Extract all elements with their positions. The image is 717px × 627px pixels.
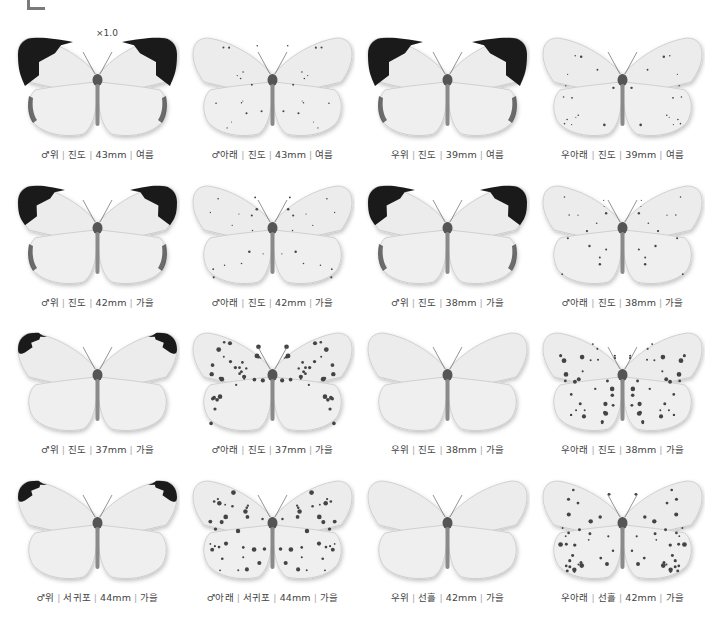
separator: | [591,149,594,160]
separator: | [480,444,483,455]
sex-side-label: 우위 [391,592,409,603]
season-label: 가을 [140,592,158,603]
size-label: 39mm [446,149,477,160]
sex-side-label: 우위 [391,444,409,455]
butterfly-image [540,30,705,142]
season-label: 여름 [315,149,333,160]
sex-side-label: ♂아래 [211,149,238,160]
separator: | [480,297,483,308]
separator: | [269,297,272,308]
size-label: 42mm [96,297,127,308]
separator: | [309,444,312,455]
butterfly-image [365,473,530,585]
size-label: 38mm [625,297,656,308]
separator: | [309,297,312,308]
separator: | [591,592,594,603]
season-label: 가을 [486,444,504,455]
locality-label: 진도 [418,297,436,308]
separator: | [309,149,312,160]
locality-label: 선흘 [418,592,436,603]
specimen-card: ♂위|서귀포|44mm|가을 [10,473,185,621]
sex-side-label: ♂아래 [561,297,588,308]
specimen-card: ♂아래|서귀포|44mm|가을 [185,473,360,621]
separator: | [659,444,662,455]
separator: | [412,149,415,160]
separator: | [619,297,622,308]
sex-side-label: 우아래 [561,592,588,603]
butterfly-image [540,325,705,437]
sex-side-label: ♂아래 [211,297,238,308]
separator: | [659,297,662,308]
season-label: 가을 [315,444,333,455]
butterfly-image [365,30,530,142]
separator: | [62,149,65,160]
separator: | [619,592,622,603]
size-label: 38mm [446,297,477,308]
corner-bracket-mark [27,0,45,10]
separator: | [619,149,622,160]
season-label: 가을 [136,444,154,455]
specimen-caption: ♂위|진도|37mm|가을 [10,442,185,456]
specimen-caption: 우아래|진도|39mm|여름 [535,147,710,161]
sex-side-label: 우아래 [561,444,588,455]
separator: | [273,592,276,603]
season-label: 가을 [315,297,333,308]
specimen-caption: ♂위|서귀포|44mm|가을 [10,590,185,604]
specimen-caption: 우위|진도|39mm|여름 [360,147,535,161]
separator: | [62,297,65,308]
separator: | [314,592,317,603]
size-label: 43mm [96,149,127,160]
size-label: 39mm [625,149,656,160]
separator: | [269,149,272,160]
separator: | [480,592,483,603]
butterfly-image [15,30,180,142]
size-label: 38mm [625,444,656,455]
specimen-caption: 우위|선흘|42mm|가을 [360,590,535,604]
separator: | [659,149,662,160]
locality-label: 서귀포 [243,592,270,603]
specimen-card: ♂아래|진도|42mm|가을 [185,178,360,326]
season-label: 가을 [666,592,684,603]
size-label: 44mm [100,592,131,603]
separator: | [412,592,415,603]
specimen-card: 우위|선흘|42mm|가을 [360,473,535,621]
season-label: 여름 [666,149,684,160]
specimen-card: 우위|진도|38mm|가을 [360,325,535,473]
butterfly-image [540,178,705,290]
sex-side-label: 우위 [391,149,409,160]
specimen-card: ♂아래|진도|43mm|여름 [185,30,360,178]
specimen-card: ♂아래|진도|38mm|가을 [535,178,710,326]
locality-label: 진도 [248,149,266,160]
specimen-caption: 우아래|진도|38mm|가을 [535,442,710,456]
butterfly-image [15,178,180,290]
specimen-caption: ♂아래|진도|43mm|여름 [185,147,360,161]
size-label: 43mm [275,149,306,160]
butterfly-image [190,325,355,437]
separator: | [89,444,92,455]
locality-label: 진도 [248,297,266,308]
separator: | [659,592,662,603]
sex-side-label: 우아래 [561,149,588,160]
separator: | [62,444,65,455]
separator: | [130,297,133,308]
separator: | [241,297,244,308]
sex-side-label: ♂위 [41,149,59,160]
size-label: 37mm [96,444,127,455]
specimen-caption: 우아래|선흘|42mm|가을 [535,590,710,604]
specimen-card: ♂위|진도|42mm|가을 [10,178,185,326]
specimen-card: 우아래|진도|38mm|가을 [535,325,710,473]
locality-label: 진도 [418,149,436,160]
sex-side-label: ♂아래 [207,592,234,603]
separator: | [130,149,133,160]
separator: | [439,444,442,455]
separator: | [237,592,240,603]
specimen-caption: ♂아래|진도|38mm|가을 [535,295,710,309]
separator: | [241,444,244,455]
season-label: 가을 [665,297,683,308]
sex-side-label: ♂위 [391,297,409,308]
size-label: 42mm [446,592,477,603]
specimen-grid: ♂위|진도|43mm|여름 [10,30,710,620]
butterfly-image [15,473,180,585]
specimen-card: 우위|진도|39mm|여름 [360,30,535,178]
locality-label: 진도 [598,297,616,308]
